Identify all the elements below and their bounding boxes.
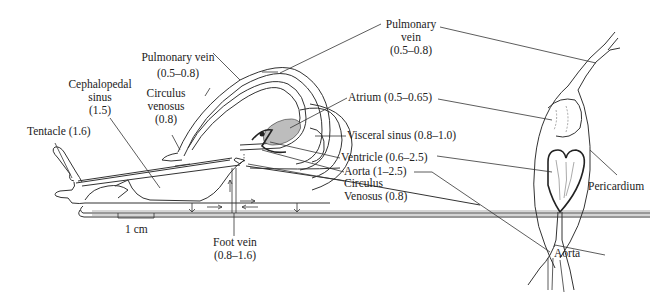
label-line1: Pulmonary [380, 18, 442, 31]
label-tentacle: Tentacle (1.6) [27, 125, 91, 138]
label-scale-bar: 1 cm [125, 223, 148, 236]
label-line1: Circulus [344, 177, 407, 190]
label-value: (0.8–1.6) [205, 249, 265, 262]
label-pericardium: Pericardium [588, 180, 644, 193]
label-cephalopedal-sinus: Cephalopedal sinus (1.5) [64, 78, 136, 117]
label-line2: venosus [140, 100, 192, 113]
label-line1: Cephalopedal [64, 78, 136, 91]
label-atrium: Atrium (0.5–0.65) [348, 91, 432, 104]
label-value: (0.5–0.8) [380, 44, 442, 57]
label-pulmonary-vein-center: Pulmonary vein (0.5–0.8) [380, 18, 442, 57]
label-visceral-sinus: Visceral sinus (0.8–1.0) [347, 129, 456, 142]
label-name: Tentacle (1.6) [27, 125, 91, 137]
label-foot-vein: Foot vein (0.8–1.6) [205, 236, 265, 262]
label-name: Aorta [554, 247, 580, 259]
label-name: Aorta (1–2.5) [344, 165, 407, 177]
label-aorta-right: Aorta [554, 247, 580, 260]
label-line2: vein [380, 31, 442, 44]
scale-bar-text: 1 cm [125, 223, 148, 235]
label-line1: Circulus [140, 87, 192, 100]
label-value: (1.5) [64, 104, 136, 117]
label-name: Pericardium [588, 180, 644, 192]
label-pulmonary-vein-left: Pulmonary vein (0.5–0.8) [133, 51, 223, 80]
label-name: Visceral sinus (0.8–1.0) [347, 129, 456, 141]
label-circulus-venosus-top: Circulus venosus (0.8) [140, 87, 192, 126]
label-name: Pulmonary vein [133, 51, 223, 64]
label-line2: sinus [64, 91, 136, 104]
label-name: Foot vein [205, 236, 265, 249]
label-name: Atrium (0.5–0.65) [348, 91, 432, 103]
label-circulus-venosus-center: Circulus Venosus (0.8) [344, 177, 407, 203]
label-name: Ventricle (0.6–2.5) [341, 151, 428, 163]
label-value: (0.8) [140, 113, 192, 126]
label-ventricle: Ventricle (0.6–2.5) [341, 151, 428, 164]
label-line2: Venosus (0.8) [344, 190, 407, 203]
label-value: (0.5–0.8) [133, 67, 223, 80]
